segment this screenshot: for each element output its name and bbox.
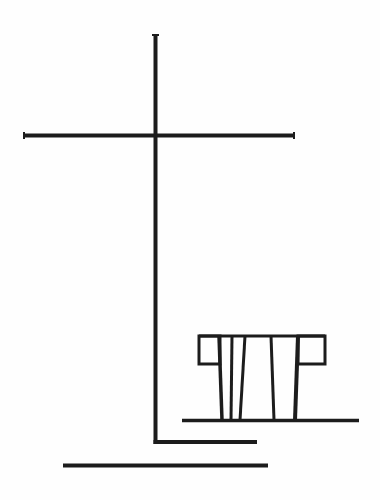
structure-stroke-1: [219, 336, 222, 420]
cross-figure: [23, 34, 295, 444]
structure-stroke-3: [240, 336, 245, 420]
structure-stroke-4: [271, 336, 274, 420]
structure-stroke-5: [295, 336, 298, 420]
drawing-canvas: [0, 0, 380, 500]
line-drawing: [0, 0, 380, 500]
structure-right-block: [298, 336, 325, 364]
structure-stroke-2: [231, 336, 232, 420]
structure-figure: [199, 336, 325, 420]
structure-left-block: [199, 336, 220, 364]
